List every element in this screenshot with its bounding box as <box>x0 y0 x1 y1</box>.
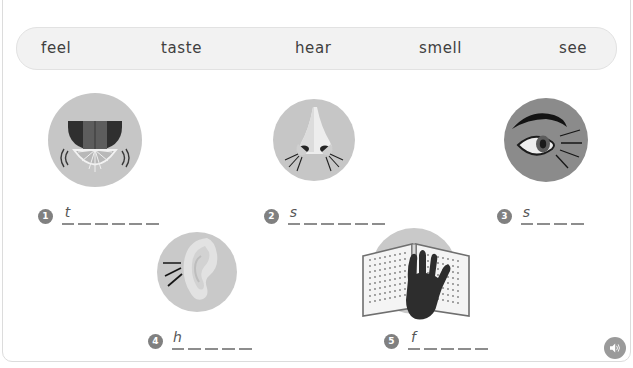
item-1-blanks[interactable]: t <box>62 205 159 225</box>
item-3-blank[interactable] <box>554 223 567 225</box>
item-3-answer[interactable]: 3 s <box>497 205 584 225</box>
item-4-picture <box>157 232 237 312</box>
item-2-answer[interactable]: 2 s <box>264 205 385 225</box>
item-3-number: 3 <box>497 209 512 224</box>
item-1-number: 1 <box>38 209 53 224</box>
item-5-blank[interactable] <box>458 348 471 350</box>
item-3-picture <box>504 98 588 182</box>
word-bank-word-taste[interactable]: taste <box>161 39 202 57</box>
item-1-blank[interactable] <box>112 223 125 225</box>
item-2-blank[interactable] <box>355 223 368 225</box>
nose-icon <box>273 99 355 181</box>
instruction-clip: Write the words. <box>0 0 633 14</box>
item-1-given-letter: t <box>62 205 74 225</box>
item-3-blank[interactable] <box>537 223 550 225</box>
instruction-text: Write the words. <box>42 0 157 3</box>
word-bank-word-hear[interactable]: hear <box>295 39 332 57</box>
item-1-blank[interactable] <box>78 223 91 225</box>
item-1-answer[interactable]: 1 t <box>38 205 159 225</box>
item-4-blank[interactable] <box>205 348 218 350</box>
item-2-blanks[interactable]: s <box>288 205 385 225</box>
item-5-given-letter: f <box>408 330 420 350</box>
item-5-blank[interactable] <box>475 348 488 350</box>
word-bank: feel taste hear smell see <box>16 27 617 70</box>
item-1-picture <box>48 93 142 187</box>
item-5-blank[interactable] <box>441 348 454 350</box>
item-1-blank[interactable] <box>129 223 142 225</box>
item-4-given-letter: h <box>172 330 184 350</box>
worksheet-page: Write the words. feel taste hear smell s… <box>0 0 633 368</box>
mouth-tongue-lemon-icon <box>48 93 142 187</box>
item-2-blank[interactable] <box>372 223 385 225</box>
braille-book-art <box>357 234 475 326</box>
item-1-blank[interactable] <box>95 223 108 225</box>
item-2-picture <box>273 99 355 181</box>
item-4-blank[interactable] <box>222 348 235 350</box>
item-2-number: 2 <box>264 209 279 224</box>
item-4-blanks[interactable]: h <box>172 330 252 350</box>
item-4-blank[interactable] <box>188 348 201 350</box>
item-2-blank[interactable] <box>338 223 351 225</box>
item-5-blanks[interactable]: f <box>408 330 488 350</box>
item-2-blank[interactable] <box>321 223 334 225</box>
speaker-icon <box>608 341 622 355</box>
item-4-blank[interactable] <box>239 348 252 350</box>
item-2-blank[interactable] <box>304 223 317 225</box>
item-5-answer[interactable]: 5 f <box>384 330 488 350</box>
word-bank-word-smell[interactable]: smell <box>419 39 462 57</box>
item-4-number: 4 <box>148 334 163 349</box>
item-2-given-letter: s <box>288 205 300 225</box>
item-4-answer[interactable]: 4 h <box>148 330 252 350</box>
ear-icon <box>157 232 237 312</box>
item-3-blanks[interactable]: s <box>521 205 584 225</box>
item-5-number: 5 <box>384 334 399 349</box>
item-1-blank[interactable] <box>146 223 159 225</box>
word-bank-word-feel[interactable]: feel <box>41 39 71 57</box>
item-3-given-letter: s <box>521 205 533 225</box>
audio-play-button[interactable] <box>604 337 626 359</box>
word-bank-word-see[interactable]: see <box>559 39 587 57</box>
item-5-blank[interactable] <box>424 348 437 350</box>
eye-icon <box>504 98 588 182</box>
item-3-blank[interactable] <box>571 223 584 225</box>
